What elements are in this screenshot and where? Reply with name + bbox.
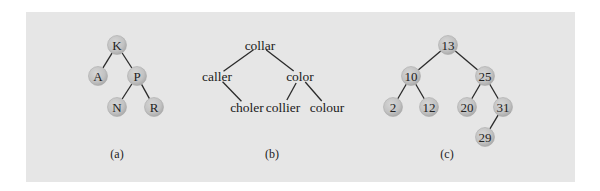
tree-node: 12 bbox=[420, 98, 439, 117]
node-label: collar bbox=[245, 38, 276, 53]
node-label: 31 bbox=[497, 100, 510, 115]
tree-node: N bbox=[108, 98, 127, 117]
tree-node: P bbox=[128, 67, 147, 86]
tree-node: 25 bbox=[476, 67, 495, 86]
tree-node: caller bbox=[202, 69, 232, 84]
tree-node: collar bbox=[245, 38, 276, 53]
tree-node: 20 bbox=[458, 98, 477, 117]
tree-edge bbox=[142, 84, 150, 98]
tree-edge bbox=[223, 82, 242, 102]
node-label: 12 bbox=[423, 100, 436, 115]
node-label: 2 bbox=[390, 100, 397, 115]
caption-b: (b) bbox=[265, 147, 279, 161]
tree-node: choler bbox=[230, 100, 264, 115]
tree-edge bbox=[122, 53, 132, 68]
node-label: choler bbox=[230, 100, 264, 115]
tree-edge bbox=[122, 84, 132, 99]
tree-node: 31 bbox=[494, 98, 513, 117]
tree-edge bbox=[103, 53, 112, 68]
tree-node: 13 bbox=[439, 36, 458, 55]
node-label: P bbox=[133, 69, 140, 84]
tree-edge bbox=[398, 84, 406, 99]
tree-edge bbox=[266, 50, 293, 71]
caption-a: (a) bbox=[110, 147, 123, 161]
node-label: caller bbox=[202, 69, 232, 84]
tree-edge bbox=[416, 84, 424, 99]
tree-node: A bbox=[89, 67, 108, 86]
node-label: 13 bbox=[442, 38, 455, 53]
tree-edge bbox=[287, 83, 296, 100]
tree-node: color bbox=[286, 69, 314, 84]
tree-node: R bbox=[145, 98, 164, 117]
node-label: N bbox=[112, 100, 122, 115]
tree-node: 29 bbox=[476, 128, 495, 147]
node-label: 29 bbox=[479, 130, 492, 145]
tree-edge bbox=[418, 51, 440, 70]
node-label: K bbox=[112, 38, 122, 53]
tree-node: collier bbox=[266, 100, 301, 115]
tree-panel-c bbox=[398, 51, 498, 129]
node-label: 10 bbox=[405, 69, 418, 84]
nodes-layer: KAPNRcollarcallercolorcholercolliercolou… bbox=[89, 36, 513, 147]
node-label: 20 bbox=[461, 100, 474, 115]
node-label: colour bbox=[310, 100, 345, 115]
tree-edge bbox=[472, 84, 480, 99]
tree-edge bbox=[305, 82, 321, 101]
tree-edge bbox=[455, 51, 477, 70]
caption-c: (c) bbox=[440, 147, 453, 161]
tree-node: colour bbox=[310, 100, 345, 115]
node-label: 25 bbox=[479, 69, 492, 84]
node-label: collier bbox=[266, 100, 301, 115]
tree-node: 10 bbox=[402, 67, 421, 86]
tree-node: 2 bbox=[384, 98, 403, 117]
captions-layer: (a)(b)(c) bbox=[110, 147, 453, 161]
edges-layer bbox=[103, 50, 498, 129]
tree-node: K bbox=[108, 36, 127, 55]
node-label: R bbox=[150, 100, 159, 115]
node-label: A bbox=[93, 69, 103, 84]
tree-edge bbox=[490, 115, 498, 129]
tree-figure: KAPNRcollarcallercolorcholercolliercolou… bbox=[0, 0, 600, 191]
node-label: color bbox=[286, 69, 314, 84]
tree-edge bbox=[490, 84, 498, 99]
